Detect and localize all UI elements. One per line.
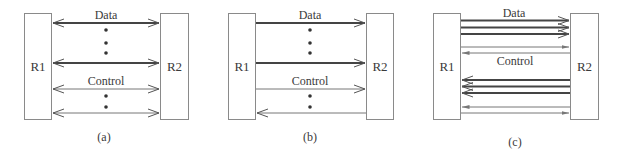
ellipsis-dot: [308, 105, 312, 109]
data-label-c: Data: [503, 6, 526, 20]
ellipsis-dot: [308, 28, 312, 32]
node-label-r1-a: R1: [30, 59, 45, 74]
ellipsis-dot: [104, 28, 108, 32]
caption-b: (b): [303, 130, 317, 144]
node-label-r2-c: R2: [577, 59, 592, 74]
ellipsis-dot: [308, 41, 312, 45]
control-label-b: Control: [292, 74, 329, 88]
node-label-r1-b: R1: [234, 59, 249, 74]
control-label-c: Control: [497, 54, 534, 68]
node-label-r2-b: R2: [372, 59, 387, 74]
data-label-b: Data: [299, 8, 322, 22]
ellipsis-dot: [308, 94, 312, 98]
data-label-a: Data: [95, 8, 118, 22]
ellipsis-dot: [104, 41, 108, 45]
control-label-a: Control: [88, 74, 125, 88]
panel-a: R1 R2 Data Control (a): [25, 8, 189, 144]
node-label-r1-c: R1: [439, 59, 454, 74]
caption-c: (c): [508, 135, 521, 149]
diagram-canvas: R1 R2 Data Control (a) R1 R2 Data: [0, 0, 622, 156]
node-label-r2-a: R2: [167, 59, 182, 74]
caption-a: (a): [97, 130, 110, 144]
ellipsis-dot: [104, 105, 108, 109]
ellipsis-dot: [104, 94, 108, 98]
panel-b: R1 R2 Data Control (b): [229, 8, 394, 144]
ellipsis-dot: [308, 51, 312, 55]
panel-c: R1 R2 Data Control (c): [434, 6, 599, 149]
ellipsis-dot: [104, 51, 108, 55]
